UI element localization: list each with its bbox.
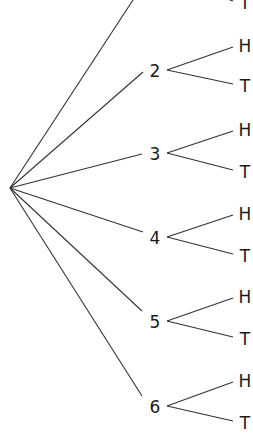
outcome-label-3-H: H <box>239 122 252 139</box>
outcome-label-3-T: T <box>240 164 250 181</box>
outcome-line-6-T <box>167 406 233 421</box>
node-label-5: 5 <box>150 314 161 331</box>
outcome-line-4-T <box>167 237 233 254</box>
node-label-6: 6 <box>150 399 161 416</box>
outcome-label-6-H: H <box>239 373 252 390</box>
outcome-line-1-T <box>167 0 233 1</box>
outcome-line-5-T <box>167 321 233 337</box>
outcome-label-5-H: H <box>239 289 252 306</box>
outcome-line-2-T <box>167 70 233 84</box>
node-label-4: 4 <box>150 230 161 247</box>
node-label-2: 2 <box>150 63 161 80</box>
outcome-label-1-T: T <box>240 0 250 12</box>
outcome-label-5-T: T <box>240 331 250 348</box>
outcome-line-5-H <box>167 298 233 321</box>
branch-line-1 <box>10 0 133 188</box>
outcome-line-3-H <box>167 131 233 153</box>
tree-diagram <box>0 0 253 448</box>
outcome-line-6-H <box>167 382 233 406</box>
branch-line-4 <box>10 188 143 232</box>
outcome-label-4-T: T <box>240 248 250 265</box>
node-label-3: 3 <box>150 146 161 163</box>
outcome-line-3-T <box>167 153 233 170</box>
outcome-label-2-T: T <box>240 78 250 95</box>
outcome-line-2-H <box>167 47 233 70</box>
outcome-line-4-H <box>167 215 233 237</box>
outcome-label-4-H: H <box>239 206 252 223</box>
outcome-label-2-H: H <box>239 38 252 55</box>
outcome-label-6-T: T <box>240 415 250 432</box>
